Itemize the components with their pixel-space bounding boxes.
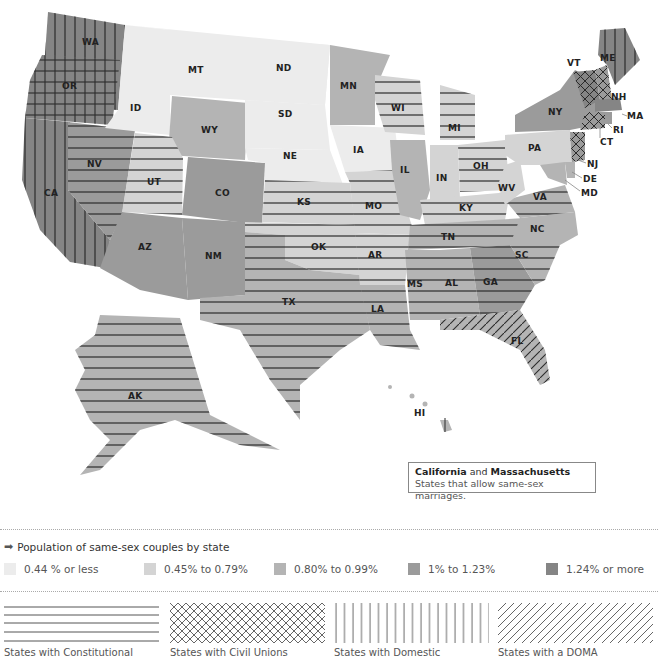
svg-text:SD: SD: [278, 109, 293, 119]
legend-bucket-1: 0.44 % or less: [4, 563, 98, 575]
state-NJ[interactable]: [570, 132, 585, 162]
us-map: WA OR CA NV ID MT WY UT CO AZ NM ND SD N…: [0, 0, 658, 540]
state-MD[interactable]: [540, 162, 567, 185]
legend-bucket-5: 1.24% or more: [546, 563, 644, 575]
svg-text:CT: CT: [600, 137, 614, 147]
svg-text:MS: MS: [407, 279, 423, 289]
state-AR[interactable]: [355, 233, 410, 285]
callout-joiner: and: [467, 466, 491, 477]
legend-bucket-label: 1.24% or more: [566, 563, 644, 575]
svg-text:RI: RI: [613, 125, 624, 135]
svg-text:KY: KY: [459, 203, 473, 213]
svg-text:IA: IA: [353, 145, 364, 155]
svg-text:TX: TX: [282, 297, 296, 307]
legend-pattern-label: States with Constitutional: [4, 647, 159, 658]
svg-text:NJ: NJ: [587, 159, 598, 169]
svg-text:AK: AK: [128, 391, 143, 401]
legend-pattern-constitutional: States with Constitutional: [4, 603, 159, 658]
svg-text:HI: HI: [414, 408, 425, 418]
svg-text:MT: MT: [188, 65, 204, 75]
legend-pattern-doma: States with a DOMA: [498, 603, 653, 658]
state-FL[interactable]: [440, 310, 550, 385]
legend-bucket-label: 0.44 % or less: [24, 563, 98, 575]
svg-text:DE: DE: [583, 174, 597, 184]
horizontal-lines-swatch: [4, 603, 159, 643]
state-SD[interactable]: [245, 100, 330, 150]
state-RI[interactable]: [605, 112, 612, 124]
svg-text:NM: NM: [205, 251, 222, 261]
svg-text:IL: IL: [400, 165, 410, 175]
svg-text:GA: GA: [483, 277, 498, 287]
crosshatch-swatch: [170, 603, 325, 643]
svg-text:NH: NH: [611, 92, 627, 102]
svg-text:WA: WA: [82, 37, 99, 47]
callout-state-1: California: [415, 466, 467, 477]
svg-text:MN: MN: [340, 81, 357, 91]
svg-text:WY: WY: [201, 125, 218, 135]
svg-text:TN: TN: [441, 232, 455, 242]
svg-text:VA: VA: [533, 192, 547, 202]
legend-bucket-label: 0.80% to 0.99%: [294, 563, 378, 575]
diagonal-lines-swatch: [498, 603, 653, 643]
legend-pattern-domestic: States with Domestic: [334, 603, 489, 658]
svg-text:PA: PA: [528, 143, 541, 153]
callout-state-2: Massachusetts: [491, 466, 571, 477]
svg-text:SC: SC: [515, 250, 529, 260]
legend-bucket-4: 1% to 1.23%: [408, 563, 495, 575]
svg-text:MI: MI: [448, 123, 461, 133]
svg-text:AR: AR: [368, 250, 383, 260]
arrow-right-icon: ➡: [4, 540, 13, 553]
state-DE[interactable]: [565, 162, 575, 178]
divider-top: [0, 529, 658, 530]
svg-text:IN: IN: [436, 173, 447, 183]
legend-bucket-3: 0.80% to 0.99%: [274, 563, 378, 575]
legend-pattern-civil-union: States with Civil Unions: [170, 603, 325, 658]
svg-text:AZ: AZ: [138, 242, 152, 252]
svg-text:NC: NC: [530, 224, 545, 234]
svg-text:CO: CO: [215, 188, 230, 198]
svg-text:ID: ID: [130, 103, 141, 113]
svg-text:VT: VT: [567, 58, 581, 68]
svg-text:MD: MD: [581, 188, 598, 198]
same-sex-marriage-callout: California and Massachusetts States that…: [408, 462, 596, 493]
swatch-bucket-5: [546, 563, 558, 575]
svg-text:OR: OR: [62, 81, 77, 91]
svg-text:OK: OK: [311, 242, 327, 252]
svg-text:ND: ND: [276, 63, 292, 73]
legend-pattern-label: States with a DOMA: [498, 647, 653, 658]
legend-bucket-2: 0.45% to 0.79%: [144, 563, 248, 575]
svg-text:ME: ME: [600, 53, 616, 63]
legend-buckets: 0.44 % or less 0.45% to 0.79% 0.80% to 0…: [4, 563, 658, 579]
legend-bucket-label: 0.45% to 0.79%: [164, 563, 248, 575]
svg-text:NV: NV: [87, 159, 102, 169]
callout-subtitle: States that allow same-sex marriages.: [415, 478, 589, 502]
vertical-lines-swatch: [334, 603, 489, 643]
legend-pattern-label: States with Domestic: [334, 647, 489, 658]
svg-text:CA: CA: [44, 188, 58, 198]
svg-text:UT: UT: [147, 177, 162, 187]
swatch-bucket-4: [408, 563, 420, 575]
swatch-bucket-1: [4, 563, 16, 575]
legend-title: ➡ Population of same-sex couples by stat…: [4, 540, 229, 553]
swatch-bucket-2: [144, 563, 156, 575]
swatch-bucket-3: [274, 563, 286, 575]
svg-text:NE: NE: [283, 151, 297, 161]
legend-bucket-label: 1% to 1.23%: [428, 563, 495, 575]
svg-text:MO: MO: [365, 201, 382, 211]
svg-text:FL: FL: [511, 336, 523, 346]
svg-text:LA: LA: [371, 304, 384, 314]
svg-text:NY: NY: [548, 107, 563, 117]
legend-title-text: Population of same-sex couples by state: [17, 541, 229, 553]
svg-text:WI: WI: [391, 103, 405, 113]
legend-pattern-label: States with Civil Unions: [170, 647, 325, 658]
legend-patterns: States with Constitutional States with C…: [0, 603, 658, 658]
divider-bottom: [0, 591, 658, 592]
svg-text:KS: KS: [297, 197, 311, 207]
svg-text:WV: WV: [498, 183, 516, 193]
svg-text:AL: AL: [445, 278, 458, 288]
svg-text:OH: OH: [473, 161, 489, 171]
svg-text:MA: MA: [627, 111, 644, 121]
